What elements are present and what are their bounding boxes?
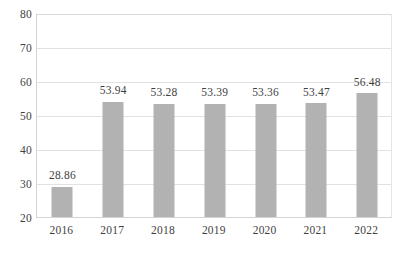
- plot-area: 28.86 53.94 53.28 53.39 53.36 53.47: [36, 14, 392, 218]
- bar-slot-2017: 53.94: [88, 14, 139, 217]
- y-tick-label-20: 20: [2, 213, 32, 225]
- bar-value-2020: 53.36: [252, 86, 279, 98]
- bar-2019[interactable]: [204, 104, 225, 218]
- x-tick-label-2020: 2020: [253, 224, 277, 236]
- y-tick-label-30: 30: [2, 179, 32, 191]
- x-tick-label-2019: 2019: [202, 224, 226, 236]
- y-tick-label-40: 40: [2, 145, 32, 157]
- bar-value-2022: 56.48: [354, 76, 381, 88]
- bar-2022[interactable]: [357, 93, 378, 217]
- x-tick-label-2021: 2021: [303, 224, 327, 236]
- bar-slot-2019: 53.39: [189, 14, 240, 217]
- bar-slot-2021: 53.47: [291, 14, 342, 217]
- y-tick-label-80: 80: [2, 9, 32, 21]
- bar-chart: 80 70 60 50 40 30 20 28.86 53.94 53.28: [0, 0, 407, 254]
- bar-slot-2022: 56.48: [342, 14, 393, 217]
- bar-value-2018: 53.28: [151, 86, 178, 98]
- x-tick-label-2022: 2022: [354, 224, 378, 236]
- x-axis: 2016 2017 2018 2019 2020 2021 2022: [36, 224, 392, 244]
- bar-value-2016: 28.86: [49, 169, 76, 181]
- bar-2018[interactable]: [153, 104, 174, 217]
- y-axis: 80 70 60 50 40 30 20: [0, 0, 32, 254]
- y-tick-label-70: 70: [2, 43, 32, 55]
- bar-slot-2016: 28.86: [37, 14, 88, 217]
- bar-2017[interactable]: [103, 102, 124, 217]
- y-tick-label-60: 60: [2, 77, 32, 89]
- y-tick-label-50: 50: [2, 111, 32, 123]
- bar-value-2021: 53.47: [303, 86, 330, 98]
- bar-2016[interactable]: [52, 187, 73, 217]
- bar-slot-2018: 53.28: [139, 14, 190, 217]
- bar-value-2017: 53.94: [100, 84, 127, 96]
- x-tick-label-2018: 2018: [151, 224, 175, 236]
- bar-slot-2020: 53.36: [240, 14, 291, 217]
- x-tick-label-2016: 2016: [49, 224, 73, 236]
- x-tick-label-2017: 2017: [100, 224, 124, 236]
- bar-2021[interactable]: [306, 103, 327, 217]
- bar-2020[interactable]: [255, 104, 276, 217]
- bar-value-2019: 53.39: [201, 86, 228, 98]
